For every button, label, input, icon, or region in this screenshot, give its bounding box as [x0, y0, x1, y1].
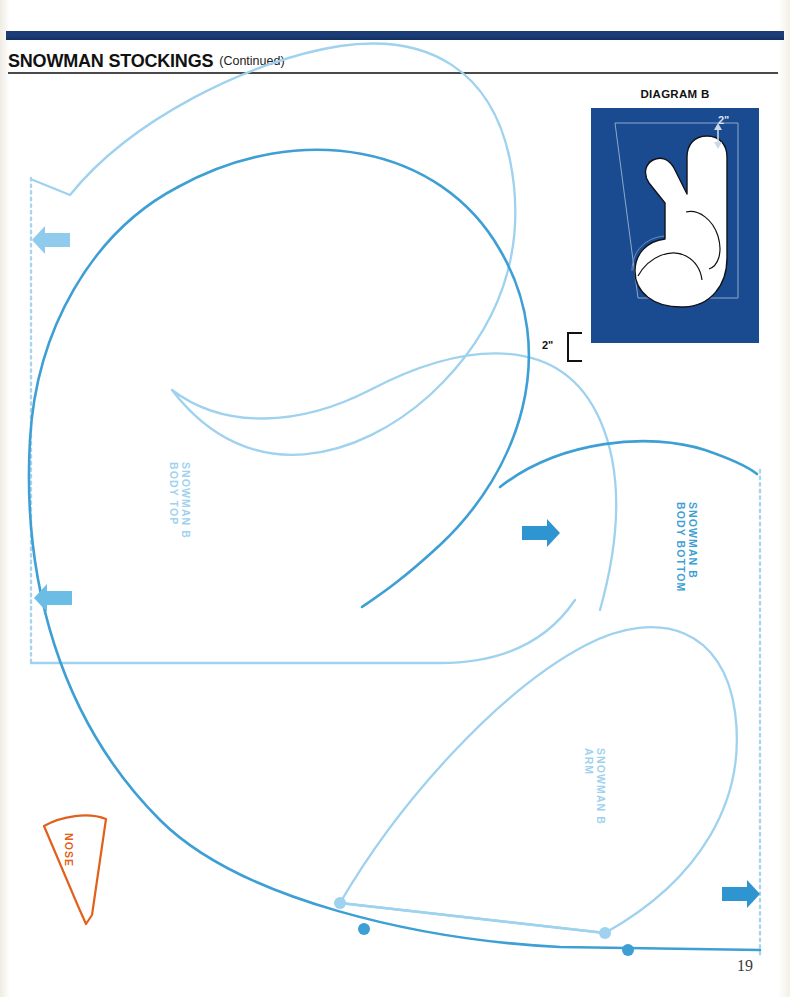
piece-label-arm-line2: ARM — [583, 748, 595, 775]
piece-outline-body-top — [33, 44, 616, 610]
diagram-measure-label-left: 2" — [542, 339, 553, 351]
piece-outline-body-bottom-right — [500, 441, 757, 487]
piece-outline-nose — [44, 815, 106, 924]
piece-label-body-top-line1: SNOWMAN B — [180, 462, 192, 539]
diagram-mitten-shape — [635, 136, 727, 307]
diagram-b: DIAGRAM B 2" 2" — [590, 88, 760, 358]
diagram-measure-bracket — [564, 331, 586, 363]
piece-label-nose: NOSE — [63, 833, 75, 867]
diagram-b-illustration — [591, 108, 759, 343]
piece-label-arm: SNOWMAN B ARM — [583, 748, 607, 825]
piece-label-body-top: SNOWMAN B BODY TOP — [168, 462, 192, 539]
corner-dot-arm-right — [599, 927, 611, 939]
corner-dot-body-left — [358, 923, 370, 935]
corner-dot-body-right — [622, 944, 634, 956]
piece-label-body-bottom: SNOWMAN B BODY BOTTOM — [675, 502, 699, 592]
grain-arrow-left-top — [32, 226, 70, 254]
piece-label-nose-line1: NOSE — [63, 833, 75, 867]
piece-outline-body-top-lower — [31, 600, 575, 663]
grain-arrow-right-bottom — [722, 880, 760, 908]
piece-outline-body-bottom-top — [178, 150, 529, 607]
piece-outline-arm — [340, 627, 737, 933]
page-number: 19 — [730, 957, 760, 975]
diagram-measure-left: 2" — [542, 331, 588, 361]
piece-label-body-top-line2: BODY TOP — [168, 462, 180, 525]
diagram-measure-label-top: 2" — [718, 114, 729, 126]
piece-label-arm-line1: SNOWMAN B — [595, 748, 607, 825]
corner-dot-arm-left — [334, 897, 346, 909]
piece-label-body-bottom-line1: SNOWMAN B — [687, 502, 699, 579]
grain-arrow-right-top — [522, 519, 560, 547]
piece-outline-arm-baseline — [340, 903, 605, 933]
piece-label-body-bottom-line2: BODY BOTTOM — [675, 502, 687, 592]
diagram-b-title: DIAGRAM B — [590, 88, 760, 100]
